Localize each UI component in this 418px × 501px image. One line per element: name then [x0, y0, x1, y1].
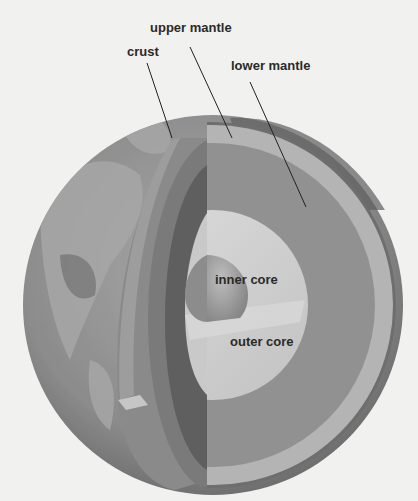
label-outer-core: outer core — [230, 334, 294, 349]
label-inner-core: inner core — [215, 272, 278, 287]
earth-cross-section — [0, 0, 418, 501]
label-crust: crust — [127, 44, 159, 59]
label-upper-mantle: upper mantle — [150, 20, 232, 35]
label-lower-mantle: lower mantle — [231, 58, 310, 73]
